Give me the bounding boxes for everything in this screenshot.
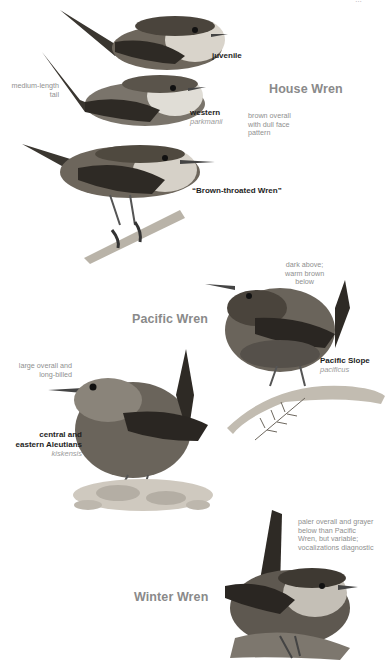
winter-wren-illustration <box>220 508 370 668</box>
juvenile-label: juvenile <box>212 51 242 61</box>
winter-wren-title: Winter Wren <box>134 590 208 604</box>
brown-throated-wren-illustration <box>20 140 220 265</box>
pacific-slope-sci-name: pacificus <box>320 365 349 374</box>
brown-throated-label: “Brown-throated Wren” <box>192 186 282 196</box>
house-wren-title: House Wren <box>269 82 343 96</box>
pacific-wren-title: Pacific Wren <box>132 312 208 326</box>
western-house-wren-illustration <box>40 50 210 130</box>
aleutian-sci-name: kiskensis <box>0 449 82 458</box>
aleutian-label: central and eastern Aleutians <box>0 430 82 449</box>
house-wren-description: brown overall with dull face pattern <box>248 112 291 138</box>
western-sci-name: parkmanii <box>190 117 223 126</box>
description-line: pattern <box>248 129 291 138</box>
label-line: eastern Aleutians <box>0 440 82 450</box>
cut-off-corner-text: … <box>355 0 362 3</box>
label-line: central and <box>0 430 82 440</box>
